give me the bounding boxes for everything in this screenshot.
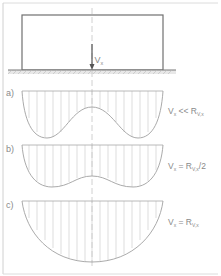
case-a: a) Vx << RV,x bbox=[6, 88, 204, 138]
case-b-hatch bbox=[29, 145, 156, 187]
case-b: b) Vx = RV,x/2 bbox=[6, 144, 206, 187]
case-c-curve bbox=[22, 201, 163, 262]
case-a-condition: Vx << RV,x bbox=[168, 106, 204, 117]
case-a-curve bbox=[22, 91, 163, 138]
case-b-condition: Vx = RV,x/2 bbox=[168, 161, 206, 172]
case-a-hatch bbox=[29, 91, 156, 137]
case-c-label: c) bbox=[6, 200, 14, 210]
case-b-curve bbox=[22, 145, 163, 187]
case-a-label: a) bbox=[6, 88, 14, 98]
pressure-distribution-diagram: Vx a) Vx << RV,x b) V bbox=[0, 0, 221, 276]
case-b-label: b) bbox=[6, 144, 14, 154]
case-c: c) Vx = RV,x bbox=[6, 200, 199, 262]
case-c-hatch bbox=[29, 201, 156, 262]
case-c-condition: Vx = RV,x bbox=[168, 217, 199, 228]
